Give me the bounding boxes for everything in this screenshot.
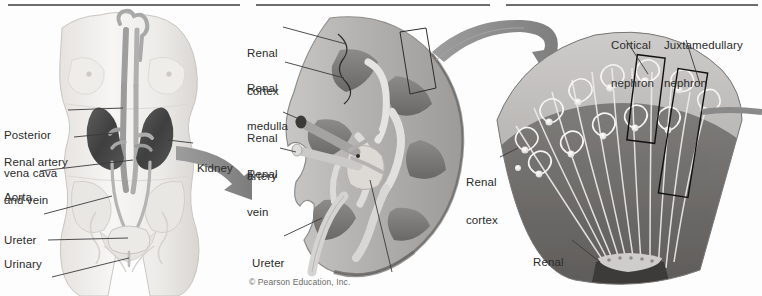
artwork-kidney-section: [280, 17, 463, 276]
label-line: Renal: [533, 256, 574, 269]
label-line: Urinary: [4, 258, 43, 271]
figure-urinary-system: Posterior vena cava Renal artery and vei…: [0, 0, 762, 296]
label-line: Ureter: [252, 257, 285, 270]
label-urethra: Urethra: [4, 272, 43, 296]
label-line: vein: [247, 206, 278, 219]
label-line: Kidney: [197, 162, 233, 175]
label-line: nephron: [611, 77, 654, 90]
label-juxtamedullary-nephron: Juxtamedullary nephron: [664, 14, 743, 114]
label-line: Aorta: [4, 191, 32, 204]
title-rule-3: [506, 4, 758, 6]
label-renal-cortex-wedge: Renal cortex: [466, 151, 498, 251]
label-line: Renal: [247, 82, 288, 95]
copyright-credit: © Pearson Education, Inc.: [249, 277, 350, 287]
label-line: Renal: [247, 168, 278, 181]
label-line: nephron: [664, 77, 743, 90]
label-line: Juxtamedullary: [664, 39, 743, 52]
label-renal-pelvis: Renal pelvis: [392, 277, 456, 296]
label-renal-vein: Renal vein: [247, 143, 278, 243]
label-kidney: Kidney: [197, 137, 233, 200]
label-line: Cortical: [611, 39, 654, 52]
label-cortical-nephron: Cortical nephron: [611, 14, 654, 114]
label-renal-medulla-wedge: Renal medulla: [533, 231, 574, 296]
label-line: Renal: [466, 176, 498, 189]
title-rule-1: [8, 4, 240, 6]
title-rule-2: [256, 4, 490, 6]
label-line: cortex: [466, 214, 498, 227]
